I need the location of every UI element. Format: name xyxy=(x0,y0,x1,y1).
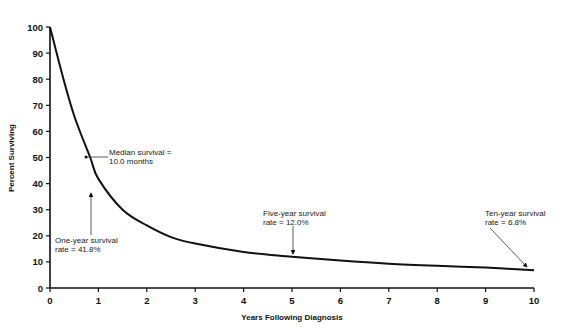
y-tick-label: 50 xyxy=(32,152,43,163)
x-axis-ticks: 012345678910 xyxy=(47,288,539,306)
x-tick-label: 2 xyxy=(144,295,149,306)
median-label-line1: Median survival = xyxy=(109,148,172,157)
x-tick-label: 0 xyxy=(47,295,52,306)
y-axis-title: Percent Surviving xyxy=(7,124,16,192)
y-tick-label: 80 xyxy=(32,74,43,85)
five-year-survival-annotation: Five-year survival rate = 12.0% xyxy=(263,209,326,254)
x-tick-label: 3 xyxy=(193,295,198,306)
y-tick-label: 0 xyxy=(38,283,43,294)
x-tick-label: 10 xyxy=(529,295,540,306)
x-tick-label: 5 xyxy=(289,295,295,306)
y-tick-label: 10 xyxy=(32,256,43,267)
y-tick-label: 40 xyxy=(32,178,43,189)
x-tick-label: 4 xyxy=(241,295,247,306)
x-tick-label: 9 xyxy=(483,295,488,306)
one-year-label-line1: One-year survival xyxy=(55,236,118,245)
y-axis-ticks: 0102030405060708090100 xyxy=(27,22,50,294)
survival-chart: 0102030405060708090100 012345678910 Year… xyxy=(0,0,565,327)
y-tick-label: 100 xyxy=(27,22,43,33)
median-label-line2: 10.0 months xyxy=(109,157,153,166)
y-tick-label: 60 xyxy=(32,126,43,137)
x-tick-label: 7 xyxy=(386,295,391,306)
x-tick-label: 1 xyxy=(96,295,102,306)
one-year-survival-annotation: One-year survival rate = 41.8% xyxy=(55,193,118,254)
ten-year-survival-annotation: Ten-year survival rate = 6.8% xyxy=(485,209,546,267)
ten-year-label-line1: Ten-year survival xyxy=(485,209,546,218)
five-year-label-line2: rate = 12.0% xyxy=(263,218,309,227)
chart-svg: 0102030405060708090100 012345678910 Year… xyxy=(0,0,565,327)
y-tick-label: 30 xyxy=(32,204,43,215)
median-survival-annotation: Median survival = 10.0 months xyxy=(85,148,172,166)
ten-year-label-line2: rate = 6.8% xyxy=(485,218,526,227)
x-tick-label: 6 xyxy=(338,295,343,306)
y-tick-label: 20 xyxy=(32,230,43,241)
x-axis-title: Years Following Diagnosis xyxy=(241,313,343,322)
y-tick-label: 90 xyxy=(32,48,43,59)
one-year-label-line2: rate = 41.8% xyxy=(55,245,101,254)
y-tick-label: 70 xyxy=(32,100,43,111)
x-tick-label: 8 xyxy=(435,295,440,306)
five-year-label-line1: Five-year survival xyxy=(263,209,326,218)
